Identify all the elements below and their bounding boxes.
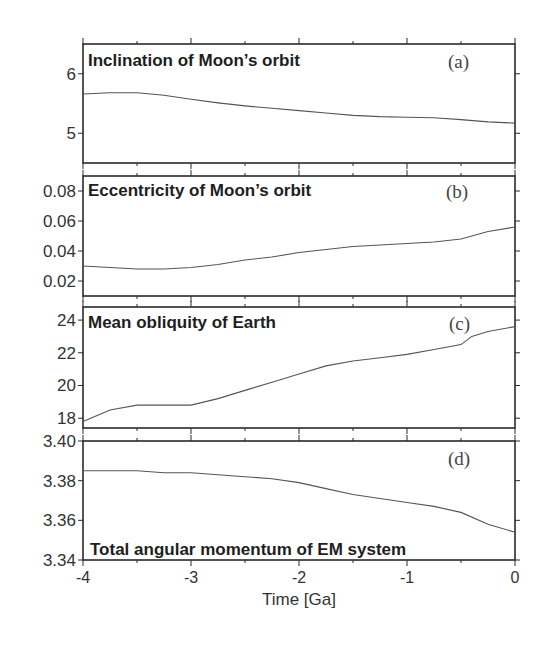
x-tick-label: 0 [511, 569, 520, 586]
y-tick-label: 0.04 [43, 242, 76, 261]
panel-a-yticks: 56 [67, 65, 520, 144]
x-tick-label: -1 [400, 569, 414, 586]
panel-b-tag: (b) [446, 181, 468, 203]
panel-c-curve [83, 327, 515, 422]
y-tick-label: 22 [57, 344, 76, 363]
y-tick-label: 20 [57, 376, 76, 395]
panel-a-title: Inclination of Moon’s orbit [88, 51, 300, 70]
panel-a-curve [83, 93, 515, 123]
panel-c-title: Mean obliquity of Earth [88, 313, 276, 332]
y-tick-label: 0.08 [43, 182, 76, 201]
panel-a-tag: (a) [448, 51, 469, 73]
y-tick-label: 18 [57, 409, 76, 428]
panel-b-curve [83, 227, 515, 269]
panel-d-tag: (d) [448, 448, 470, 470]
y-tick-label: 3.40 [43, 432, 76, 451]
y-tick-label: 0.02 [43, 272, 76, 291]
y-tick-label: 24 [57, 311, 76, 330]
panel-d-curve [83, 471, 515, 532]
x-axis: -4-3-2-10 Time [Ga] [76, 569, 520, 609]
x-tick-label: -2 [292, 569, 306, 586]
x-tick-label: -4 [76, 569, 90, 586]
panel-d-title: Total angular momentum of EM system [90, 540, 406, 559]
y-tick-label: 3.34 [43, 551, 76, 570]
y-tick-label: 5 [67, 124, 76, 143]
y-tick-label: 0.06 [43, 212, 76, 231]
panel-c-tag: (c) [449, 313, 470, 335]
panel-c: 18202224 Mean obliquity of Earth (c) [57, 301, 520, 434]
panel-a: 56 Inclination of Moon’s orbit (a) [67, 38, 520, 169]
panel-b-title: Eccentricity of Moon’s orbit [88, 181, 312, 200]
x-tick-labels: -4-3-2-10 [76, 569, 520, 586]
panel-d: 3.343.363.383.40 Total angular momentum … [43, 432, 520, 570]
x-tick-label: -3 [184, 569, 198, 586]
y-tick-label: 3.38 [43, 472, 76, 491]
panel-b: 0.020.040.060.08 Eccentricity of Moon’s … [43, 170, 520, 302]
y-tick-label: 6 [67, 65, 76, 84]
y-tick-label: 3.36 [43, 511, 76, 530]
x-axis-label: Time [Ga] [262, 590, 336, 609]
figure: 56 Inclination of Moon’s orbit (a) 0.020… [0, 0, 550, 650]
